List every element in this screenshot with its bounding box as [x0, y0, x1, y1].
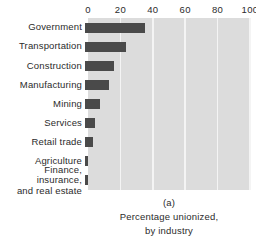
caption-line-1: Percentage unionized, — [88, 210, 250, 224]
bar-row: Mining — [0, 94, 256, 113]
bar — [85, 42, 126, 52]
x-tick-label-20: 20 — [115, 4, 126, 16]
bar-row: Services — [0, 114, 256, 133]
x-tick-label-80: 80 — [212, 4, 223, 16]
bar-track — [85, 133, 247, 152]
bar-track — [85, 94, 247, 113]
bar-row: Retail trade — [0, 133, 256, 152]
category-label: Transportation — [0, 41, 85, 52]
category-label: Services — [0, 118, 85, 129]
bar-track — [85, 75, 247, 94]
bar-row: Finance, insurance, and real estate — [0, 171, 256, 190]
figure-panel-a: 020406080100 GovernmentTransportationCon… — [0, 0, 256, 247]
bar-row: Government — [0, 18, 256, 37]
bar — [85, 156, 88, 166]
bar-row: Transportation — [0, 37, 256, 56]
bar-rows: GovernmentTransportationConstructionManu… — [0, 18, 256, 190]
bar-track — [85, 114, 247, 133]
bar — [85, 137, 93, 147]
bar-row: Construction — [0, 56, 256, 75]
x-tick-label-40: 40 — [147, 4, 158, 16]
bar-row: Manufacturing — [0, 75, 256, 94]
category-label: Government — [0, 22, 85, 33]
category-label: Manufacturing — [0, 80, 85, 91]
bar — [85, 23, 145, 33]
x-tick-label-100: 100 — [242, 4, 256, 16]
bar-track — [85, 56, 247, 75]
bar — [85, 99, 100, 109]
figure-caption: (a) Percentage unionized, by industry — [88, 196, 250, 238]
category-label: Construction — [0, 61, 85, 72]
x-tick-label-60: 60 — [180, 4, 191, 16]
category-label: Retail trade — [0, 137, 85, 148]
bar — [85, 175, 88, 185]
bar — [85, 61, 114, 71]
x-tick-label-0: 0 — [85, 4, 91, 16]
bar-track — [85, 37, 247, 56]
bar-track — [85, 152, 247, 171]
bar-track — [85, 171, 247, 190]
category-label: Mining — [0, 99, 85, 110]
x-axis-tick-labels: 020406080100 — [88, 4, 250, 18]
bar — [85, 80, 109, 90]
panel-identifier: (a) — [88, 196, 250, 210]
category-label: Finance, insurance, and real estate — [0, 165, 85, 197]
bar-track — [85, 18, 247, 37]
caption-line-2: by industry — [88, 224, 250, 238]
bar — [85, 118, 95, 128]
